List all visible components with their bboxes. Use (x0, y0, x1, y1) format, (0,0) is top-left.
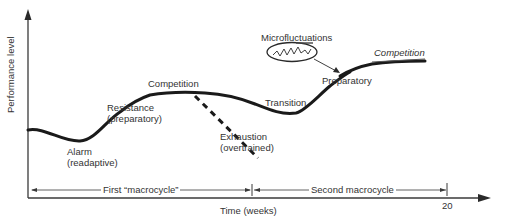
phase-transition-label: Transition (265, 97, 306, 108)
performance-diagram: Performance level Time (weeks) 20 First … (0, 0, 509, 222)
phase-alarm-label: Alarm (readaptive) (67, 146, 118, 168)
first-macrocycle-label: First “macrocycle” (101, 184, 180, 195)
phase-preparatory-label: Preparatory (322, 75, 372, 86)
x-axis-arrow-icon (478, 194, 491, 202)
y-axis-label: Performance level (5, 36, 16, 113)
diagram-canvas (0, 0, 509, 222)
y-axis-arrow-icon (25, 9, 32, 20)
phase-competition-1-label: Competition (148, 78, 199, 89)
phase-exhaustion-label: Exhaustion (overtrained) (220, 131, 274, 153)
microfluctuations-label: Microfluctuations (261, 32, 332, 43)
microfluctuations-callout (267, 43, 340, 74)
phase-competition-2-label: Competition (374, 47, 425, 58)
y-axis (25, 9, 32, 198)
x-axis-tick-20: 20 (442, 200, 453, 211)
performance-curve-second-peak (340, 61, 425, 76)
x-axis (28, 183, 491, 202)
second-macrocycle-label: Second macrocycle (309, 184, 396, 195)
x-axis-label: Time (weeks) (220, 205, 277, 216)
phase-resistance-label: Resistance (preparatory) (107, 102, 162, 124)
